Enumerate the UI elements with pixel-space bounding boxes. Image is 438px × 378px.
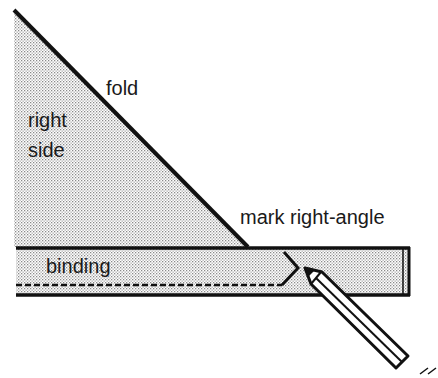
label-side: side	[28, 140, 65, 160]
label-mark-right-angle: mark right-angle	[240, 207, 385, 227]
label-binding: binding	[46, 256, 111, 276]
label-fold: fold	[106, 78, 138, 98]
diagram-canvas	[0, 0, 438, 378]
label-right: right	[28, 110, 67, 130]
corner-mark	[420, 368, 436, 374]
